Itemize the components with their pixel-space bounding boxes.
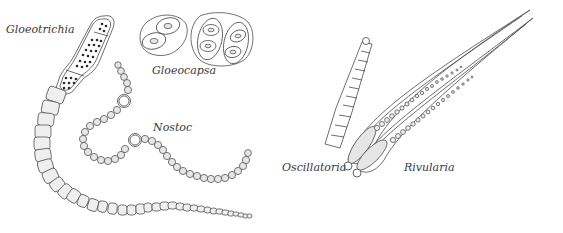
gloeocapsa-drawing [140,13,253,66]
illustration-canvas [0,0,563,233]
oscillatoria-label: Oscillatoria [282,161,346,174]
rivularia-label: Rivularia [404,161,455,174]
nostoc-label: Nostoc [153,121,192,134]
gloeotrichia-trichome [34,85,252,218]
cyanobacteria-illustration: Gloeotrichia Gloeocapsa Nostoc Oscillato… [0,0,563,233]
gloeotrichia-label: Gloeotrichia [6,23,75,36]
gloeocapsa-label: Gloeocapsa [152,64,216,77]
rivularia-drawing [344,10,533,177]
